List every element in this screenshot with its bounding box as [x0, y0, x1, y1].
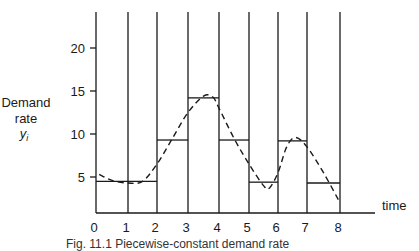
y-axis-label-line1: Demand	[1, 95, 50, 110]
x-tick-label: 8	[334, 220, 341, 235]
x-tick-label: 7	[301, 220, 308, 235]
y-ticks: 5101520	[71, 41, 96, 185]
y-tick-label: 20	[71, 41, 85, 56]
x-tick-label: 4	[213, 220, 220, 235]
x-tick-label: 1	[122, 220, 129, 235]
x-axis-label: time	[382, 198, 407, 213]
x-tick-label: 0	[90, 220, 97, 235]
figure-caption: Fig. 11.1 Piecewise-constant demand rate	[66, 237, 289, 251]
y-axis-label-line2: rate	[15, 111, 37, 126]
x-tick-label: 6	[272, 220, 279, 235]
x-tick-label: 2	[151, 220, 158, 235]
y-tick-label: 10	[71, 127, 85, 142]
x-tick-label: 5	[243, 220, 250, 235]
y-tick-label: 5	[78, 170, 85, 185]
x-tick-label: 3	[182, 220, 189, 235]
y-tick-label: 15	[71, 84, 85, 99]
step-series	[96, 98, 340, 183]
x-tick-labels: 012345678	[90, 220, 341, 235]
y-axis-label-symbol: yi	[19, 126, 30, 143]
